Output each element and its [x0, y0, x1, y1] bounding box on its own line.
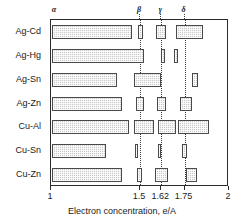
alloy-label-ag-hg: Ag-Hg — [0, 50, 46, 60]
bar-segment — [52, 144, 106, 158]
x-tick-3 — [184, 186, 185, 190]
phase-label-alpha: α — [47, 5, 61, 14]
bar-segment — [192, 73, 198, 87]
x-tick-label-4: 2 — [211, 191, 244, 201]
alloy-label-cu-zn: Cu-Zn — [0, 169, 46, 179]
bar-segment — [156, 25, 166, 39]
bar-segment — [157, 97, 166, 111]
x-tick-1 — [139, 186, 140, 190]
bar-segment — [180, 97, 192, 111]
bar-segment — [52, 97, 122, 111]
x-tick-4 — [228, 186, 229, 190]
bar-segment — [138, 25, 143, 39]
bar-segment — [182, 144, 186, 158]
bar-segment — [134, 73, 162, 87]
phase-label-delta: δ — [177, 5, 191, 14]
alloy-label-cu-sn: Cu-Sn — [0, 145, 46, 155]
bar-segment — [136, 97, 144, 111]
bar-segment — [161, 49, 165, 63]
x-tick-label-0: 1 — [33, 191, 67, 201]
bar-segment — [158, 144, 161, 158]
x-tick-2 — [160, 186, 161, 190]
bar-segment — [137, 168, 142, 182]
bar-segment — [186, 168, 196, 182]
alloy-label-ag-sn: Ag-Sn — [0, 74, 46, 84]
alloy-label-ag-zn: Ag-Zn — [0, 98, 46, 108]
x-axis-title: Electron concentration, e/A — [0, 206, 244, 216]
bar-segment — [52, 49, 145, 63]
x-tick-label-3: 1.75 — [167, 191, 201, 201]
bar-segment — [52, 73, 117, 87]
x-tick-0 — [50, 186, 51, 190]
electron-concentration-phase-chart: αβγδ Ag-CdAg-HgAg-SnAg-ZnCu-AlCu-SnCu-Zn… — [0, 0, 244, 224]
alloy-label-cu-al: Cu-Al — [0, 121, 46, 131]
bar-segment — [174, 49, 178, 63]
bar-segment — [52, 168, 122, 182]
bar-segment — [155, 168, 168, 182]
phase-label-beta: β — [132, 5, 146, 14]
plot-area — [50, 19, 228, 186]
bar-segment — [52, 25, 132, 39]
bar-segment — [176, 25, 203, 39]
phase-label-gamma: γ — [153, 5, 167, 14]
bar-segment — [158, 120, 176, 134]
bar-segment — [134, 120, 154, 134]
alloy-label-ag-cd: Ag-Cd — [0, 26, 46, 36]
bar-segment — [52, 120, 129, 134]
bar-segment — [178, 120, 208, 134]
bar-segment — [135, 144, 138, 158]
